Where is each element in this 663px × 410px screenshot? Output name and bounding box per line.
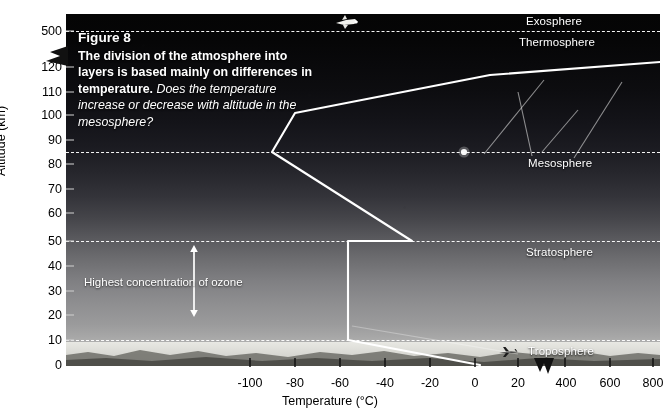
x-tick-label-neg20: -20 [421,376,439,390]
y-tick-label-50: 50 [48,234,62,248]
figure-caption: Figure 8 The division of the atmosphere … [78,30,314,131]
ozone-concentration-label: Highest concentration of ozone [84,276,243,288]
figure-number: Figure 8 [78,30,314,47]
y-tick-label-30: 30 [48,284,62,298]
y-tick-label-500: 500 [41,24,62,38]
x-axis-break-marker [533,358,555,378]
x-tick-label-0: 0 [472,376,479,390]
x-tick-label-400: 400 [556,376,577,390]
x-tick-label-20: 20 [511,376,525,390]
y-tick-label-70: 70 [48,182,62,196]
x-tick-label-neg60: -60 [331,376,349,390]
y-tick-label-40: 40 [48,259,62,273]
x-tick-label-600: 600 [600,376,621,390]
plot-area: Exosphere Thermosphere Mesosphere Strato… [66,14,660,366]
y-tick-label-20: 20 [48,308,62,322]
y-tick-label-60: 60 [48,206,62,220]
x-tick-marks [66,358,660,367]
y-tick-label-100: 100 [41,108,62,122]
y-axis-break-marker [44,45,68,67]
y-tick-label-90: 90 [48,133,62,147]
x-tick-label-800: 800 [643,376,663,390]
y-axis-title: Altitude (km) [0,106,8,176]
y-tick-label-110: 110 [42,85,62,99]
x-axis-title: Temperature (°C) [0,394,660,408]
x-tick-label-neg40: -40 [376,376,394,390]
x-tick-label-neg100: -100 [237,376,262,390]
x-tick-label-neg80: -80 [286,376,304,390]
y-tick-label-80: 80 [48,157,62,171]
x-axis: -100 -80 -60 -40 -20 0 20 400 600 800 Te… [0,366,660,410]
y-tick-label-10: 10 [48,333,62,347]
